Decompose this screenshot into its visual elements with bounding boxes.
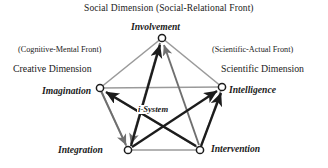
creative-dimension-label: Creative Dimension	[13, 64, 92, 74]
node-involvement	[158, 34, 165, 41]
node-intervention	[196, 146, 203, 153]
pentagon-perimeter	[100, 38, 222, 150]
pentagon-nodes	[96, 34, 225, 153]
node-imagination	[96, 84, 103, 91]
node-intelligence	[218, 83, 225, 90]
node-label-integration: Integration	[58, 145, 103, 155]
arrow-imagination-to-integration	[101, 91, 126, 145]
scientific-dimension-label: Scientific Dimension	[221, 64, 304, 74]
node-label-imagination: Imagination	[42, 86, 91, 96]
arrow-intervention-to-intelligence	[201, 93, 221, 146]
mid-gray-arrows	[101, 43, 199, 147]
edge-imagination-intelligence	[100, 87, 222, 88]
scientific-actual-front-note: (Scientific-Actual Front)	[212, 46, 293, 54]
cognitive-mental-front-note: (Cognitive-Mental Front)	[18, 46, 101, 54]
i-system-core-label: i-System	[137, 105, 169, 114]
dark-arrows	[106, 45, 221, 147]
node-integration	[124, 146, 131, 153]
node-label-intervention: Intervention	[211, 144, 260, 154]
i-system-pentagon-figure: Social Dimension (Social-Relational Fron…	[0, 0, 328, 168]
node-label-involvement: Involvement	[131, 22, 180, 32]
edge-involvement-imagination	[100, 38, 162, 88]
social-dimension-caption: Social Dimension (Social-Relational Fron…	[84, 4, 254, 14]
node-label-intelligence: Intelligence	[229, 85, 276, 95]
